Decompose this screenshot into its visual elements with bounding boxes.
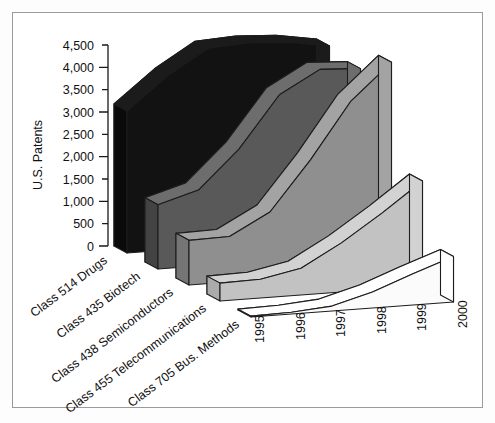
data-ribbons-group <box>114 35 454 317</box>
y-tick-label: 4,000 <box>63 61 94 75</box>
ribbon-left-end-cap <box>114 104 127 253</box>
ribbon-left-end-cap <box>176 233 189 285</box>
ribbon-right-end-cap <box>441 249 454 302</box>
y-axis <box>99 45 108 246</box>
year-axis-label: 1999 <box>415 303 429 331</box>
y-tick-label: 2,500 <box>63 128 94 142</box>
y-tick-label: 3,500 <box>63 83 94 97</box>
year-axis-label: 1998 <box>375 306 389 334</box>
year-axis-label: 1997 <box>334 309 348 337</box>
y-tick-label: 1,000 <box>63 195 94 209</box>
y-tick-label: 500 <box>73 217 94 231</box>
year-axis-label: 1996 <box>294 312 308 340</box>
year-axis-label: 2000 <box>456 300 470 328</box>
ribbon-left-end-cap <box>145 198 158 269</box>
y-tick-label: 1,500 <box>63 173 94 187</box>
figure-container: 4,5004,0003,5003,0002,5002,0001,5001,000… <box>0 0 495 423</box>
year-axis-label: 1995 <box>253 315 267 343</box>
y-axis-title: U.S. Patents <box>31 120 45 190</box>
chart-canvas: 4,5004,0003,5003,0002,5002,0001,5001,000… <box>0 0 495 423</box>
y-tick-label: 2,000 <box>63 150 94 164</box>
y-tick-label: 0 <box>87 240 94 254</box>
y-tick-label: 3,000 <box>63 106 94 120</box>
y-tick-labels-group: 4,5004,0003,5003,0002,5002,0001,5001,000… <box>63 39 94 254</box>
y-tick-label: 4,500 <box>63 39 94 53</box>
